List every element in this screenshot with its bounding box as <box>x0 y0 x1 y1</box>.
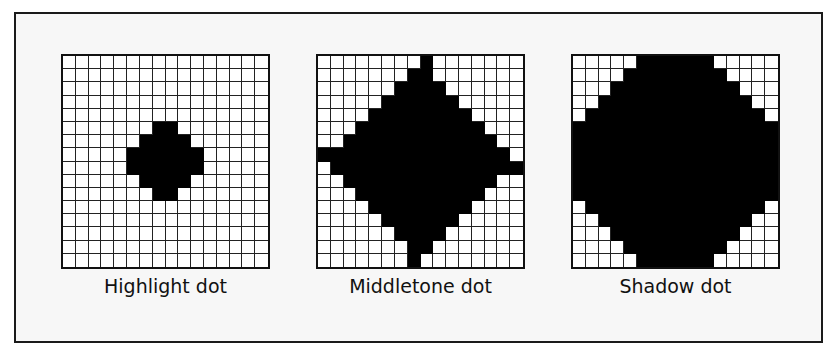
grid-cell <box>676 201 689 214</box>
grid-cell <box>663 148 676 161</box>
grid-cell <box>395 109 408 122</box>
grid-cell <box>344 82 357 95</box>
grid-cell <box>242 175 255 188</box>
grid-cell <box>408 188 421 201</box>
grid-cell <box>140 109 153 122</box>
grid-cell <box>76 214 89 227</box>
grid-cell <box>701 188 714 201</box>
grid-cell <box>153 82 166 95</box>
grid-cell <box>714 96 727 109</box>
grid-cell <box>153 109 166 122</box>
grid-cell <box>382 227 395 240</box>
grid-cell <box>178 96 191 109</box>
grid-cell <box>318 122 331 135</box>
grid-cell <box>650 214 663 227</box>
grid-cell <box>255 162 268 175</box>
grid-cell <box>765 109 778 122</box>
grid-cell <box>459 96 472 109</box>
grid-cell <box>217 162 230 175</box>
grid-cell <box>421 109 434 122</box>
grid-cell <box>166 214 179 227</box>
grid-cell <box>89 254 102 267</box>
grid-cell <box>191 148 204 161</box>
grid-cell <box>114 135 127 148</box>
grid-cell <box>114 162 127 175</box>
grid-cell <box>637 227 650 240</box>
grid-cell <box>573 69 586 82</box>
grid-cell <box>650 56 663 69</box>
grid-cell <box>369 201 382 214</box>
grid-cell <box>446 96 459 109</box>
grid-cell <box>676 227 689 240</box>
grid-cell <box>740 82 753 95</box>
grid-cell <box>611 96 624 109</box>
grid-cell <box>255 122 268 135</box>
grid-cell <box>230 254 243 267</box>
grid-cell <box>166 109 179 122</box>
grid-cell <box>599 96 612 109</box>
grid-cell <box>765 82 778 95</box>
grid-cell <box>727 56 740 69</box>
grid-cell <box>663 96 676 109</box>
grid-cell <box>611 69 624 82</box>
grid-cell <box>114 175 127 188</box>
grid-cell <box>63 148 76 161</box>
grid-cell <box>727 227 740 240</box>
grid-cell <box>688 254 701 267</box>
grid-cell <box>421 96 434 109</box>
grid-cell <box>573 135 586 148</box>
grid-cell <box>382 56 395 69</box>
grid-cell <box>765 122 778 135</box>
grid-cell <box>752 135 765 148</box>
grid-cell <box>178 227 191 240</box>
grid-cell <box>114 214 127 227</box>
grid-cell <box>599 254 612 267</box>
grid-cell <box>101 148 114 161</box>
grid-cell <box>369 122 382 135</box>
grid-cell <box>497 162 510 175</box>
grid-cell <box>573 241 586 254</box>
grid-cell <box>446 69 459 82</box>
grid-cell <box>599 162 612 175</box>
grid-cell <box>140 122 153 135</box>
grid-cell <box>676 69 689 82</box>
grid-cell <box>76 162 89 175</box>
grid-cell <box>242 135 255 148</box>
grid-cell <box>421 135 434 148</box>
grid-cell <box>395 122 408 135</box>
grid-cell <box>714 82 727 95</box>
grid-cell <box>433 254 446 267</box>
grid-cell <box>217 122 230 135</box>
grid-cell <box>217 201 230 214</box>
grid-cell <box>740 227 753 240</box>
grid-cell <box>637 214 650 227</box>
grid-cell <box>485 162 498 175</box>
grid-cell <box>230 82 243 95</box>
grid-cell <box>727 214 740 227</box>
grid-cell <box>611 135 624 148</box>
grid-cell <box>433 227 446 240</box>
grid-cell <box>650 135 663 148</box>
grid-cell <box>101 254 114 267</box>
grid-cell <box>740 109 753 122</box>
grid-cell <box>89 109 102 122</box>
grid-cell <box>153 148 166 161</box>
grid-cell <box>663 122 676 135</box>
grid-cell <box>114 122 127 135</box>
grid-cell <box>217 109 230 122</box>
grid-cell <box>497 135 510 148</box>
grid-cell <box>510 188 523 201</box>
grid-cell <box>204 96 217 109</box>
grid-cell <box>573 162 586 175</box>
grid-cell <box>230 56 243 69</box>
middletone-dot-grid <box>316 54 525 269</box>
grid-cell <box>446 188 459 201</box>
grid-cell <box>63 135 76 148</box>
grid-cell <box>701 148 714 161</box>
grid-cell <box>714 201 727 214</box>
grid-cell <box>255 201 268 214</box>
grid-cell <box>663 69 676 82</box>
grid-cell <box>101 241 114 254</box>
grid-cell <box>318 241 331 254</box>
grid-cell <box>752 96 765 109</box>
